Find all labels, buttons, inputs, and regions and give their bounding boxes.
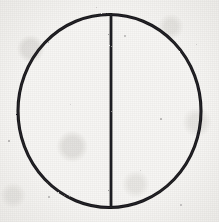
circle-outline <box>18 15 201 208</box>
bisected-circle-drawing <box>0 0 219 222</box>
figure-canvas <box>0 0 219 222</box>
